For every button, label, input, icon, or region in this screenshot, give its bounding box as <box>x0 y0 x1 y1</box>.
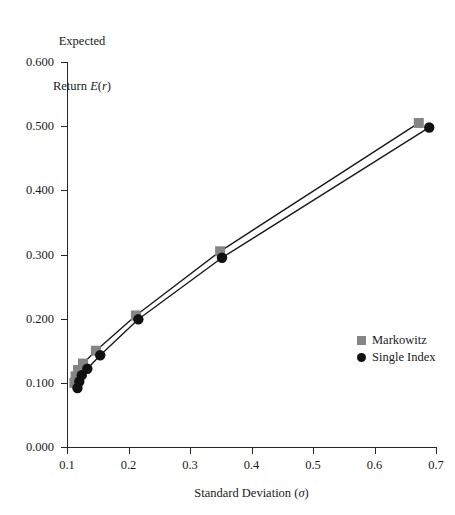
legend-circle-icon <box>357 353 366 362</box>
legend-item-label: Markowitz <box>372 333 427 348</box>
legend-item-markowitz[interactable]: Markowitz <box>357 332 436 349</box>
legend-square-icon <box>357 336 366 345</box>
chart-legend: MarkowitzSingle Index <box>357 332 436 366</box>
chart-container: Expected Return E(r) 0.0000.1000.2000.30… <box>0 0 455 515</box>
data-point-markowitz <box>414 118 424 128</box>
data-point-single-index <box>95 350 105 360</box>
legend-item-single-index[interactable]: Single Index <box>357 349 436 366</box>
x-axis-title-prefix: Standard Deviation ( <box>194 486 298 500</box>
data-point-single-index <box>217 253 227 263</box>
x-axis-title-suffix: ) <box>305 486 309 500</box>
x-axis-title: Standard Deviation (σ) <box>67 486 436 501</box>
data-point-single-index <box>424 122 434 132</box>
data-point-single-index <box>82 364 92 374</box>
chart-data-layer <box>0 0 455 515</box>
data-point-single-index <box>133 314 143 324</box>
legend-item-label: Single Index <box>372 350 436 365</box>
